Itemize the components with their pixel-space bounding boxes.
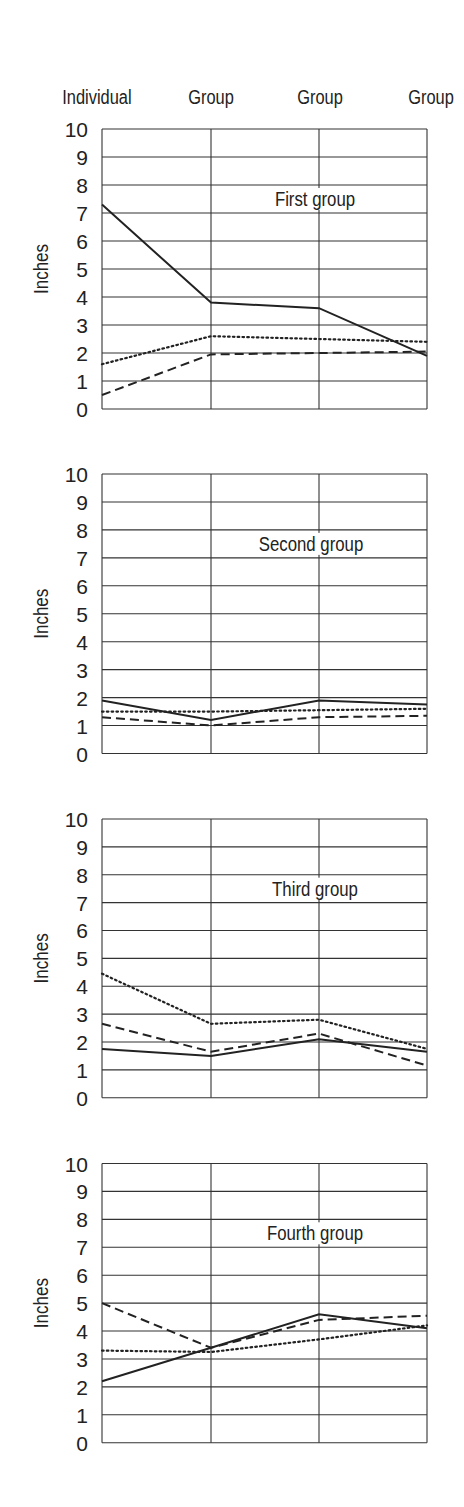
y-tick-label: 6 (76, 1264, 88, 1287)
y-tick-label: 6 (76, 919, 88, 942)
y-tick-label: 9 (76, 491, 88, 514)
y-tick-label: 1 (76, 370, 88, 393)
line-chart-figure: Individual Group Group Group 01234567891… (0, 0, 464, 1507)
series-line-dashed (102, 1303, 427, 1348)
charts-svg: 012345678910InchesFirst group01234567891… (0, 0, 464, 1507)
series-line-dashed (102, 1024, 427, 1066)
y-axis-label: Inches (30, 244, 53, 294)
series-line-dotted (102, 974, 427, 1049)
y-tick-label: 4 (76, 975, 88, 998)
y-tick-label: 10 (65, 118, 88, 141)
series-line-dotted (102, 336, 427, 364)
series-line-dashed (102, 716, 427, 726)
chart-panel-3: 012345678910InchesThird group (30, 808, 427, 1110)
y-tick-label: 5 (76, 258, 88, 281)
y-tick-label: 0 (76, 1432, 88, 1455)
y-tick-label: 7 (76, 547, 88, 570)
y-tick-label: 8 (76, 864, 88, 887)
series-line-dashed (102, 352, 427, 395)
y-tick-label: 5 (76, 1292, 88, 1315)
y-tick-label: 10 (65, 1153, 88, 1176)
y-axis-label: Inches (30, 1278, 53, 1328)
y-tick-label: 5 (76, 947, 88, 970)
series-line-solid (102, 1314, 427, 1381)
y-tick-label: 8 (76, 1208, 88, 1231)
y-tick-label: 3 (76, 1348, 88, 1371)
y-tick-label: 0 (76, 398, 88, 421)
y-tick-label: 2 (76, 1031, 88, 1054)
y-tick-label: 4 (76, 1320, 88, 1343)
y-tick-label: 6 (76, 575, 88, 598)
y-tick-label: 10 (65, 463, 88, 486)
y-tick-label: 8 (76, 519, 88, 542)
group-title: First group (275, 188, 355, 211)
y-tick-label: 9 (76, 836, 88, 859)
series-line-dotted (102, 1325, 427, 1352)
y-tick-label: 3 (76, 659, 88, 682)
group-title: Third group (272, 877, 358, 900)
y-tick-label: 2 (76, 342, 88, 365)
y-tick-label: 2 (76, 687, 88, 710)
y-tick-label: 6 (76, 230, 88, 253)
y-axis-label: Inches (30, 589, 53, 639)
y-tick-label: 3 (76, 314, 88, 337)
y-tick-label: 1 (76, 1059, 88, 1082)
group-title: Fourth group (267, 1222, 363, 1245)
chart-panel-4: 012345678910InchesFourth group (30, 1153, 427, 1455)
chart-panel-1: 012345678910InchesFirst group (30, 118, 427, 421)
y-tick-label: 0 (76, 743, 88, 766)
series-line-solid (102, 205, 427, 356)
y-tick-label: 7 (76, 202, 88, 225)
y-tick-label: 1 (76, 1404, 88, 1427)
y-tick-label: 10 (65, 808, 88, 831)
y-tick-label: 9 (76, 146, 88, 169)
y-tick-label: 9 (76, 1180, 88, 1203)
group-title: Second group (259, 532, 364, 555)
y-tick-label: 5 (76, 603, 88, 626)
y-tick-label: 3 (76, 1003, 88, 1026)
y-tick-label: 8 (76, 174, 88, 197)
y-tick-label: 4 (76, 286, 88, 309)
y-tick-label: 2 (76, 1376, 88, 1399)
y-tick-label: 4 (76, 631, 88, 654)
y-tick-label: 1 (76, 715, 88, 738)
y-tick-label: 7 (76, 892, 88, 915)
y-tick-label: 0 (76, 1087, 88, 1110)
y-axis-label: Inches (30, 933, 53, 983)
chart-panel-2: 012345678910InchesSecond group (30, 463, 427, 766)
y-tick-label: 7 (76, 1236, 88, 1259)
